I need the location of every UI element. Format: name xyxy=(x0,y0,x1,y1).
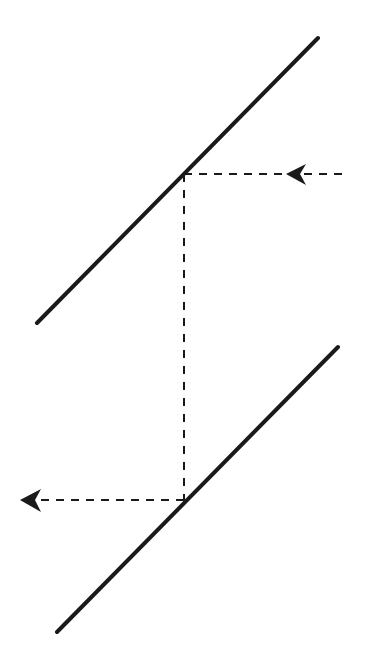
background xyxy=(0,0,379,668)
periscope-mirror-diagram xyxy=(0,0,379,668)
